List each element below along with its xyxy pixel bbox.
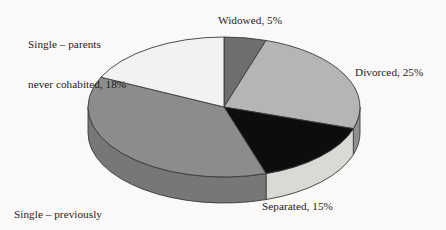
slice-label-separated: Separated, 15% [262, 200, 333, 213]
slice-label-single-previously-cohabiting: Single – previously cohabiting, 37% [14, 182, 102, 230]
slice-label-widowed: Widowed, 5% [218, 14, 282, 27]
slice-label-divorced: Divorced, 25% [355, 66, 423, 79]
slice-label-line-1: Single – parents [28, 38, 126, 51]
slice-label-line-2: never cohabited, 18% [28, 78, 126, 91]
pie-top-faces [88, 37, 360, 177]
slice-label-line-1: Single – previously [14, 208, 102, 221]
pie-chart-figure: Single – parents never cohabited, 18% Wi… [0, 0, 446, 230]
slice-label-single-parents-never-cohabited: Single – parents never cohabited, 18% [28, 12, 126, 118]
